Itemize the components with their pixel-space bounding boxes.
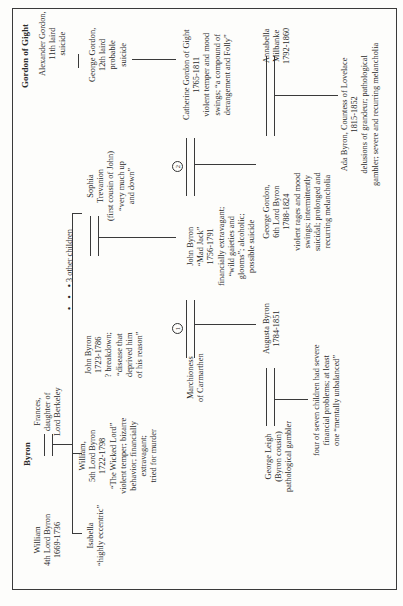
descent-line [98, 237, 176, 238]
person-catherine-gordon: Catherine Gordon of Gight1765-1811violen… [182, 30, 233, 120]
person-george-leigh: George Leigh(Byron cousin)pathological g… [264, 421, 295, 492]
marriage-line [186, 138, 187, 196]
marriage-line [194, 300, 195, 358]
marriage-marker-2: 2 [172, 161, 183, 172]
person-sophia-trevanion: SophiaTrevanion(first cousin of John)“ve… [86, 151, 137, 221]
descent-line [274, 95, 338, 96]
person-george-gordon-12th: George Gordon,12th lairdprobablesuicide [88, 28, 129, 82]
descent-line [52, 444, 72, 445]
person-augusta-byron: Augusta Byron1784-1851 [262, 303, 282, 354]
leigh-children-note: four of seven children had severefinanci… [312, 345, 343, 456]
descent-line [194, 164, 256, 165]
person-isabella: Isabella“highly eccentric” [86, 505, 106, 566]
marriage-line [194, 138, 195, 196]
marriage-line [44, 434, 45, 456]
marriage-line [266, 368, 267, 426]
marriage-line [98, 216, 99, 256]
person-frances-berkeley: Frances,daughter ofLord Berkeley [33, 387, 64, 436]
person-george-gordon-6th-lord-byron: George Gordon,6th Lord Byron1788-1824vio… [262, 172, 333, 251]
marriage-line [266, 56, 267, 136]
person-john-mad-jack-byron: John Byron“Mad Jack”1756-1791financially… [186, 207, 257, 286]
descent-line [274, 399, 308, 400]
marriage-line [90, 216, 91, 256]
marriage-line [186, 300, 187, 358]
person-john-byron-1723: John Byron1723-1786? breakdown;“disease … [84, 331, 145, 378]
marriage-line [274, 368, 275, 426]
family-tree-diagram: Byron Gordon of Gight William4th Lord By… [0, 0, 403, 606]
descent-line [194, 324, 256, 325]
byron-family-header: Byron [22, 442, 32, 466]
descent-line [72, 533, 82, 534]
marriage-marker-1: 1 [172, 323, 183, 334]
descent-line [72, 213, 82, 214]
marriage-line [52, 434, 53, 456]
ellipsis-dots: • • • [64, 281, 74, 310]
other-children-label: 3 other children [65, 229, 75, 282]
descent-line [132, 59, 176, 60]
descent-line [78, 54, 79, 68]
person-william-5th-lord: William,5th Lord Byron1722-1798“The Wick… [78, 418, 160, 494]
person-ada-lovelace: Ada Byron, Countess of Lovelace1815-1852… [340, 43, 381, 186]
person-alexander-gordon: Alexander Gordon,11th lairdsuicide [38, 11, 69, 76]
person-annabella-milbanke: AnnabellaMilbanke1792-1860 [262, 28, 293, 64]
person-marchioness-carmarthen: Marchionessof Carmarthen [186, 353, 206, 402]
marriage-line [274, 56, 275, 136]
person-william-4th-lord: William4th Lord Byron1669-1736 [33, 514, 64, 566]
gordon-family-header: Gordon of Gight [20, 24, 30, 88]
